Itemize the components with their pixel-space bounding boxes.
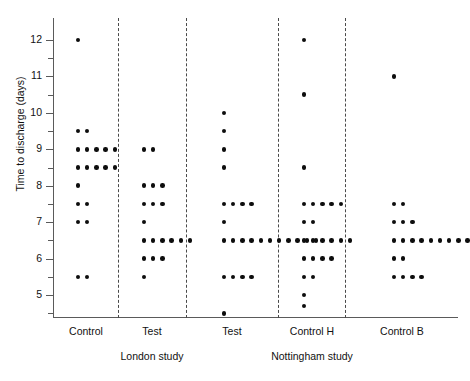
- data-point: [76, 165, 81, 170]
- data-point: [302, 275, 307, 280]
- data-point: [103, 147, 108, 152]
- data-point: [85, 202, 90, 207]
- data-point: [85, 165, 90, 170]
- data-point: [85, 275, 90, 280]
- data-point: [76, 183, 81, 188]
- data-point: [401, 256, 406, 261]
- data-point: [222, 202, 227, 207]
- y-tick-label: 7: [18, 216, 42, 227]
- data-point: [410, 238, 415, 243]
- y-tick-minor: [48, 95, 53, 96]
- data-point: [277, 238, 282, 243]
- group-separator-line: [278, 18, 279, 318]
- x-axis-line: [53, 317, 458, 318]
- group-separator-line: [118, 18, 119, 318]
- data-point: [268, 238, 273, 243]
- y-tick-major: [46, 113, 53, 114]
- dot-plot-chart: Time to discharge (days) 56789101112 Con…: [0, 0, 470, 381]
- data-point: [302, 92, 307, 97]
- data-point: [295, 238, 300, 243]
- data-point: [222, 111, 227, 116]
- data-point: [401, 238, 406, 243]
- data-point: [103, 165, 108, 170]
- data-point: [259, 238, 264, 243]
- data-point: [142, 147, 147, 152]
- data-point: [151, 256, 156, 261]
- data-point: [160, 202, 165, 207]
- data-point: [222, 165, 227, 170]
- x-axis-study-label: Nottingham study: [242, 350, 382, 362]
- data-point: [222, 147, 227, 152]
- data-point: [76, 275, 81, 280]
- y-tick-minor: [48, 168, 53, 169]
- data-point: [320, 202, 325, 207]
- data-point: [456, 238, 461, 243]
- data-point: [240, 202, 245, 207]
- data-point: [429, 238, 434, 243]
- data-point: [142, 275, 147, 280]
- y-tick-label: 9: [18, 143, 42, 154]
- data-point: [85, 129, 90, 134]
- data-point: [85, 220, 90, 225]
- data-point: [302, 256, 307, 261]
- data-point: [231, 202, 236, 207]
- data-point: [311, 256, 316, 261]
- data-point: [302, 238, 307, 243]
- y-tick-major: [46, 259, 53, 260]
- data-point: [142, 220, 147, 225]
- data-point: [94, 165, 99, 170]
- y-tick-label: 5: [18, 289, 42, 300]
- y-tick-minor: [48, 313, 53, 314]
- data-point: [401, 275, 406, 280]
- data-point: [438, 238, 443, 243]
- data-point: [231, 238, 236, 243]
- data-point: [311, 220, 316, 225]
- y-tick-major: [46, 186, 53, 187]
- data-point: [329, 256, 334, 261]
- y-axis-line: [53, 18, 54, 318]
- data-point: [249, 202, 254, 207]
- data-point: [320, 256, 325, 261]
- data-point: [302, 202, 307, 207]
- data-point: [447, 238, 452, 243]
- data-point: [392, 256, 397, 261]
- data-point: [240, 238, 245, 243]
- data-point: [329, 202, 334, 207]
- data-point: [311, 275, 316, 280]
- y-tick-minor: [48, 240, 53, 241]
- group-separator-line: [186, 18, 187, 318]
- data-point: [188, 238, 193, 243]
- x-axis-study-label: London study: [82, 350, 222, 362]
- y-tick-minor: [48, 58, 53, 59]
- data-point: [76, 202, 81, 207]
- y-tick-label: 12: [18, 34, 42, 45]
- data-point: [249, 238, 254, 243]
- data-point: [392, 74, 397, 79]
- data-point: [348, 238, 353, 243]
- data-point: [94, 147, 99, 152]
- data-point: [401, 202, 406, 207]
- data-point: [142, 238, 147, 243]
- data-point: [410, 275, 415, 280]
- data-point: [160, 256, 165, 261]
- data-point: [465, 238, 470, 243]
- data-point: [76, 38, 81, 43]
- data-point: [240, 275, 245, 280]
- x-axis-group-label: Control B: [352, 325, 452, 337]
- data-point: [339, 238, 344, 243]
- data-point: [142, 202, 147, 207]
- data-point: [329, 238, 334, 243]
- data-point: [76, 220, 81, 225]
- x-axis-group-label: Control H: [262, 325, 362, 337]
- y-tick-minor: [48, 131, 53, 132]
- group-separator-line: [345, 18, 346, 318]
- data-point: [222, 275, 227, 280]
- data-point: [320, 238, 325, 243]
- data-point: [113, 147, 118, 152]
- y-tick-major: [46, 149, 53, 150]
- y-tick-major: [46, 76, 53, 77]
- data-point: [401, 220, 406, 225]
- y-tick-minor: [48, 277, 53, 278]
- data-point: [160, 183, 165, 188]
- data-point: [76, 129, 81, 134]
